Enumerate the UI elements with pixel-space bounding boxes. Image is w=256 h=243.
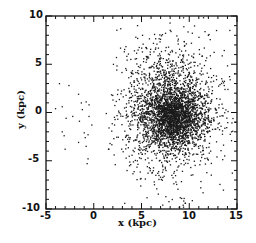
- x-tick-15: 15: [229, 210, 243, 221]
- y-tick-0: 0: [35, 105, 42, 116]
- x-axis-label: x (kpc): [118, 217, 157, 228]
- data-points: [55, 17, 236, 208]
- y-tick-5: 5: [35, 57, 42, 68]
- y-tick-neg10: -10: [22, 202, 40, 213]
- y-axis-label: y (kpc): [15, 80, 26, 140]
- x-tick-0: 0: [90, 210, 97, 221]
- x-tick-neg5: -5: [40, 210, 51, 221]
- y-tick-10: 10: [29, 9, 43, 20]
- x-tick-10: 10: [182, 210, 196, 221]
- y-tick-neg5: -5: [28, 153, 39, 164]
